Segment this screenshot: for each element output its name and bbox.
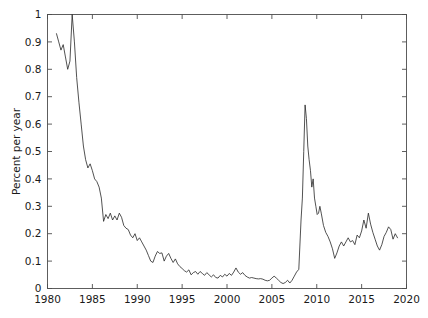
svg-text:0.9: 0.9 bbox=[25, 36, 42, 48]
svg-text:2010: 2010 bbox=[303, 293, 330, 305]
svg-text:1995: 1995 bbox=[169, 293, 196, 305]
svg-text:0.6: 0.6 bbox=[25, 118, 42, 130]
svg-text:2005: 2005 bbox=[259, 293, 286, 305]
svg-text:1980: 1980 bbox=[34, 293, 61, 305]
svg-text:Percent per year: Percent per year bbox=[10, 107, 22, 195]
svg-text:0: 0 bbox=[35, 282, 42, 294]
svg-text:2015: 2015 bbox=[348, 293, 375, 305]
svg-text:2020: 2020 bbox=[393, 293, 420, 305]
svg-text:0.1: 0.1 bbox=[25, 255, 42, 267]
line-chart: 198019851990199520002005201020152020 00.… bbox=[0, 0, 428, 318]
svg-text:1985: 1985 bbox=[79, 293, 106, 305]
plot-background bbox=[0, 0, 428, 318]
svg-text:0.8: 0.8 bbox=[25, 63, 42, 75]
svg-text:1: 1 bbox=[35, 8, 42, 20]
x-axis-tick-labels: 198019851990199520002005201020152020 bbox=[34, 293, 420, 305]
y-axis-title: Percent per year bbox=[10, 107, 22, 195]
chart-figure: 198019851990199520002005201020152020 00.… bbox=[0, 0, 428, 318]
svg-text:0.5: 0.5 bbox=[25, 145, 42, 157]
svg-text:2000: 2000 bbox=[214, 293, 241, 305]
svg-text:0.3: 0.3 bbox=[25, 200, 42, 212]
svg-text:0.4: 0.4 bbox=[25, 173, 42, 185]
svg-text:0.7: 0.7 bbox=[25, 90, 42, 102]
svg-text:0.2: 0.2 bbox=[25, 227, 42, 239]
svg-text:1990: 1990 bbox=[124, 293, 151, 305]
